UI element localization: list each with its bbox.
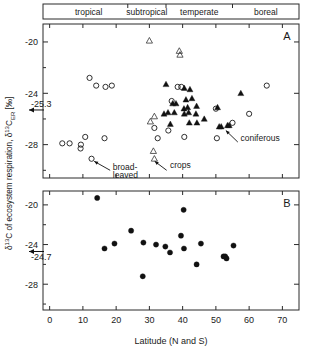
- data-point-broad-leaved: [214, 136, 219, 141]
- xtick-label-0: 0: [47, 315, 52, 325]
- data-point-site means: [181, 246, 186, 251]
- xtick-label-70: 70: [277, 315, 287, 325]
- data-point-site means: [167, 250, 172, 255]
- data-point-broad-leaved: [166, 128, 171, 133]
- annotation-coniferous: coniferous: [240, 133, 279, 143]
- panel-a-label: A: [283, 30, 291, 42]
- xtick-label-60: 60: [244, 315, 254, 325]
- data-point-crops: [151, 156, 157, 162]
- xtick-label-40: 40: [178, 315, 188, 325]
- y-axis-title: δ13C of ecosystem respiration, δ13CER [‰…: [4, 97, 16, 250]
- xtick-label-50: 50: [211, 315, 221, 325]
- data-point-crops: [150, 148, 156, 154]
- data-point-broad-leaved: [247, 111, 252, 116]
- data-point-coniferous: [189, 95, 195, 100]
- data-point-site means: [224, 256, 229, 261]
- data-point-broad-leaved: [67, 141, 72, 146]
- xtick-label-30: 30: [144, 315, 154, 325]
- data-point-coniferous: [194, 120, 200, 125]
- data-point-broad-leaved: [89, 156, 94, 161]
- data-point-coniferous: [181, 85, 187, 90]
- data-point-coniferous: [171, 109, 177, 114]
- data-point-broad-leaved: [78, 142, 83, 147]
- xtick-label-20: 20: [111, 315, 121, 325]
- ytick-label-b--20: -20: [25, 200, 38, 210]
- ytick-label-b--24: -24: [25, 240, 38, 250]
- data-point-coniferous: [163, 81, 169, 86]
- data-point-site means: [178, 233, 183, 238]
- data-point-coniferous: [183, 97, 189, 102]
- data-point-broad-leaved: [102, 136, 107, 141]
- data-point-broad-leaved: [152, 125, 157, 130]
- data-point-broad-leaved: [182, 134, 187, 139]
- data-point-site means: [231, 243, 236, 248]
- data-point-broad-leaved: [87, 75, 92, 80]
- data-point-coniferous: [187, 86, 193, 91]
- x-axis-title: Latitude (N and S): [134, 336, 207, 346]
- data-point-site means: [194, 262, 199, 267]
- figure-root: tropicalsubtropicaltemperateboreal010203…: [0, 0, 309, 354]
- data-point-site means: [129, 228, 134, 233]
- data-point-broad-leaved: [94, 83, 99, 88]
- xtick-label-10: 10: [78, 315, 88, 325]
- data-point-coniferous: [194, 103, 200, 108]
- data-point-coniferous: [215, 104, 221, 109]
- data-point-coniferous: [193, 111, 199, 116]
- zone-label-tropical: tropical: [75, 7, 103, 17]
- ytick-label-a--24: -24: [25, 89, 38, 99]
- data-point-site means: [112, 241, 117, 246]
- data-point-broad-leaved: [155, 136, 160, 141]
- data-point-crops: [151, 113, 157, 119]
- data-point-site means: [181, 207, 186, 212]
- ytick-label-b--28: -28: [25, 280, 38, 290]
- svg-text:δ13C of ecosystem respiration,: δ13C of ecosystem respiration, δ13CER [‰…: [4, 97, 16, 250]
- ytick-label-a--20: -20: [25, 37, 38, 47]
- data-point-coniferous: [165, 109, 171, 114]
- data-point-site means: [140, 274, 145, 279]
- zone-label-boreal: boreal: [254, 7, 278, 17]
- data-point-broad-leaved: [60, 141, 65, 146]
- ytick-label-a--28: -28: [25, 140, 38, 150]
- zone-label-subtropical: subtropical: [126, 7, 167, 17]
- data-point-coniferous: [238, 90, 244, 95]
- annotation-crops: crops: [170, 160, 191, 170]
- data-point-broad-leaved: [109, 83, 114, 88]
- data-point-site means: [198, 241, 203, 246]
- data-point-coniferous: [201, 116, 207, 121]
- data-point-site means: [163, 244, 168, 249]
- annotation-broad-leaved-line2: leaved: [113, 170, 138, 180]
- panel-a-frame: [43, 24, 299, 178]
- panel-b-label: B: [283, 197, 290, 209]
- zone-label-temperate: temperate: [180, 7, 219, 17]
- data-point-site means: [141, 240, 146, 245]
- mean-label-b: -24.7: [31, 252, 52, 262]
- data-point-site means: [102, 246, 107, 251]
- data-point-site means: [95, 195, 100, 200]
- mean-label-a: -25.3: [31, 99, 52, 109]
- data-point-broad-leaved: [103, 84, 108, 89]
- data-point-coniferous: [186, 120, 192, 125]
- data-point-coniferous: [185, 104, 191, 109]
- data-point-site means: [153, 242, 158, 247]
- scatter-figure: tropicalsubtropicaltemperateboreal010203…: [0, 0, 309, 354]
- data-point-broad-leaved: [264, 83, 269, 88]
- data-point-broad-leaved: [83, 134, 88, 139]
- data-point-coniferous: [167, 121, 173, 126]
- data-point-crops: [146, 37, 152, 43]
